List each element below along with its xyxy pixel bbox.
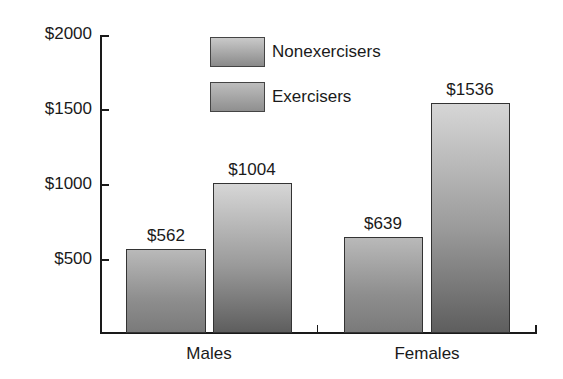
category-label-females: Females <box>367 344 487 364</box>
y-tick-1500 <box>100 109 109 111</box>
legend-label-nonexercisers: Nonexercisers <box>272 42 381 62</box>
bar-males-exercisers <box>213 183 292 333</box>
category-label-males: Males <box>149 344 269 364</box>
y-tick-500 <box>100 259 109 261</box>
y-tick-2000 <box>100 35 109 37</box>
legend-label-exercisers: Exercisers <box>272 87 351 107</box>
bar-males-nonexercisers <box>126 249 206 333</box>
bar-females-exercisers <box>431 103 510 333</box>
y-tick-label-2000: $2000 <box>0 24 92 44</box>
value-label-females-nonexercisers: $639 <box>333 214 433 234</box>
y-tick-1000 <box>100 184 109 186</box>
x-tick-end <box>535 325 537 333</box>
value-label-females-exercisers: $1536 <box>420 80 520 100</box>
y-tick-label-1500: $1500 <box>0 99 92 119</box>
y-tick-label-1000: $1000 <box>0 174 92 194</box>
legend-swatch-nonexercisers <box>210 37 265 67</box>
value-label-males-exercisers: $1004 <box>202 160 302 180</box>
x-tick-divider <box>317 325 318 333</box>
legend-swatch-exercisers <box>210 82 265 112</box>
bar-females-nonexercisers <box>344 237 423 333</box>
y-tick-label-500: $500 <box>0 249 92 269</box>
value-label-males-nonexercisers: $562 <box>116 226 216 246</box>
